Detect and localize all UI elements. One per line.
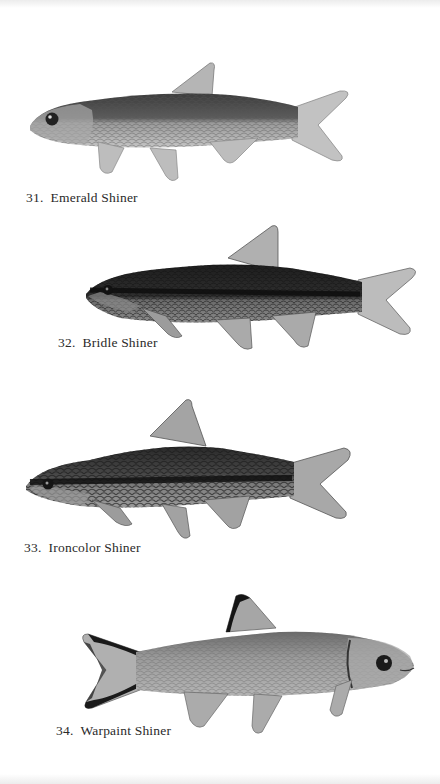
plate-bridle-shiner: 32. Bridle Shiner — [0, 210, 440, 370]
anal-fin — [210, 138, 258, 163]
plate-warpaint-shiner: 34. Warpaint Shiner — [0, 580, 440, 784]
plate-emerald-shiner: 31. Emerald Shiner — [0, 0, 440, 210]
anal-fin — [204, 496, 250, 529]
anal-fin — [272, 312, 316, 347]
warpaint-shiner-illustration — [0, 580, 440, 784]
pelvic-fin — [150, 148, 178, 181]
caudal-fin — [358, 268, 416, 334]
pelvic-fin — [216, 318, 252, 349]
caudal-fin — [288, 448, 350, 518]
scan-bottom-edge — [0, 774, 440, 784]
pelvic-fin — [162, 504, 190, 538]
caption-bridle-shiner: 32. Bridle Shiner — [58, 335, 158, 351]
dorsal-fin — [150, 400, 206, 446]
caption-emerald-shiner: 31. Emerald Shiner — [26, 190, 138, 206]
plate-ironcolor-shiner: 33. Ironcolor Shiner — [0, 390, 440, 570]
dorsal-fin — [172, 63, 215, 96]
anal-fin — [184, 692, 228, 727]
caudal-fin — [292, 91, 348, 161]
caption-warpaint-shiner: 34. Warpaint Shiner — [56, 723, 171, 739]
caption-ironcolor-shiner: 33. Ironcolor Shiner — [24, 540, 141, 556]
emerald-shiner-illustration — [0, 0, 440, 210]
pelvic-fin — [252, 694, 282, 733]
